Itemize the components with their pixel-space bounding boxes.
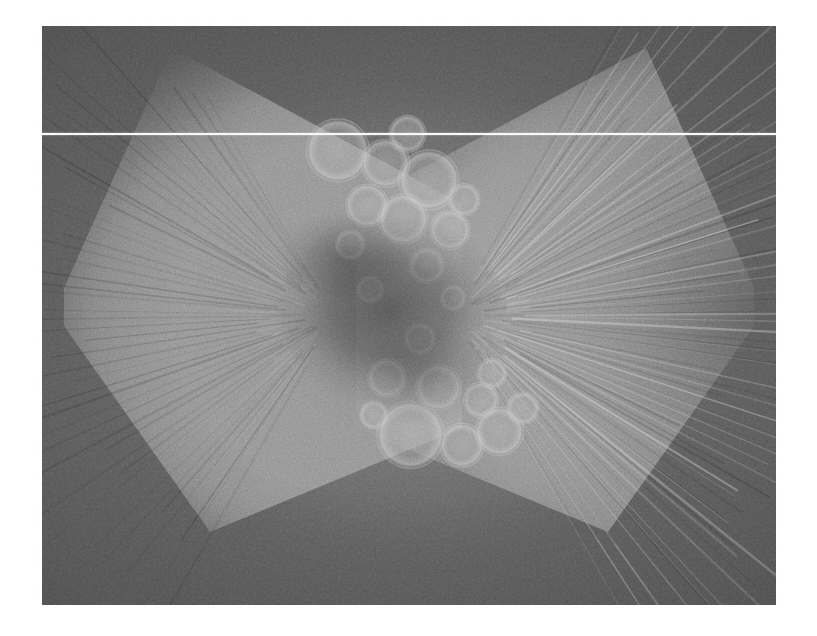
page-root — [0, 0, 817, 636]
scan-image-canvas[interactable] — [42, 26, 776, 605]
horizontal-scan-line — [42, 133, 776, 135]
right-bright-lobe — [356, 26, 776, 605]
